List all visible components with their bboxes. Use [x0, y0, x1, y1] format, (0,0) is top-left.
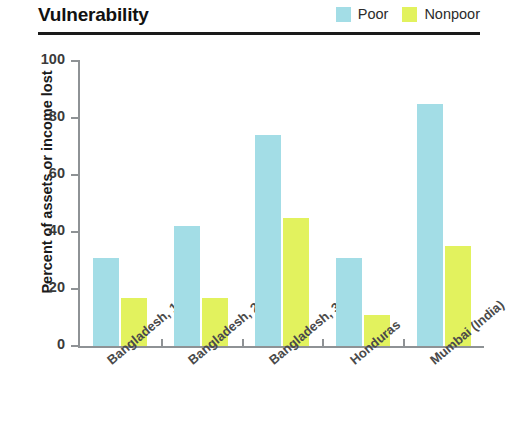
bar-poor-2[interactable]	[174, 226, 200, 346]
y-axis-tick: 40	[71, 231, 80, 233]
page-title: Vulnerability	[38, 4, 149, 26]
chart-header: Vulnerability Poor Nonpoor	[0, 0, 488, 44]
title-divider	[38, 32, 480, 35]
y-axis-tick-label: 0	[57, 336, 65, 352]
legend-swatch-icon	[402, 7, 417, 22]
chart-axes: 020406080100Bangladesh, 1Bangladesh, 2Ba…	[78, 61, 484, 348]
y-axis-tick: 60	[71, 174, 80, 176]
x-axis-group-separator	[322, 339, 324, 348]
y-axis-tick-label: 100	[41, 51, 65, 67]
bar-poor-3[interactable]	[255, 135, 281, 346]
bar-poor-4[interactable]	[336, 258, 362, 346]
bar-poor-1[interactable]	[93, 258, 119, 346]
y-axis-tick-label: 40	[49, 222, 65, 238]
y-axis-tick: 80	[71, 117, 80, 119]
plot-area: Percent of assets or income lost 0204060…	[0, 44, 488, 441]
chart-legend: Poor Nonpoor	[336, 6, 480, 22]
y-axis-tick: 0	[71, 345, 80, 347]
y-axis-tick: 100	[71, 60, 80, 62]
x-axis-group-separator	[242, 339, 244, 348]
y-axis-tick-label: 80	[49, 108, 65, 124]
legend-item-nonpoor[interactable]: Nonpoor	[402, 6, 480, 22]
legend-label: Nonpoor	[424, 6, 480, 22]
legend-swatch-icon	[336, 7, 351, 22]
y-axis-tick-label: 20	[49, 279, 65, 295]
x-axis-group-separator	[161, 339, 163, 348]
y-axis-tick-label: 60	[49, 165, 65, 181]
y-axis-tick: 20	[71, 288, 80, 290]
x-axis-group-separator	[403, 339, 405, 348]
bar-poor-5[interactable]	[417, 104, 443, 346]
legend-label: Poor	[358, 6, 389, 22]
legend-item-poor[interactable]: Poor	[336, 6, 389, 22]
